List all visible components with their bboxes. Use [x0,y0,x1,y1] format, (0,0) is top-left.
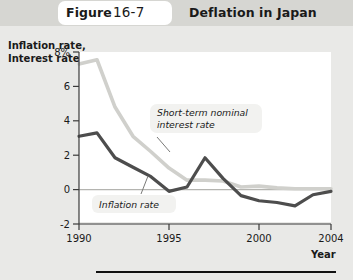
bottom-rule [96,271,336,273]
svg-text:6: 6 [64,81,70,92]
svg-text:4: 4 [64,115,70,126]
interest-annotation-line2: interest rate [157,119,215,130]
inflation-annotation-label: Inflation rate [99,199,159,210]
svg-text:1995: 1995 [156,233,181,244]
svg-text:2004: 2004 [318,233,343,244]
svg-text:8%: 8% [54,47,70,58]
x-axis-ticks: 1990199520002004 [66,224,343,244]
svg-text:-2: -2 [60,219,70,230]
y-axis-ticks: -202468% [54,47,79,230]
svg-text:2000: 2000 [246,233,271,244]
chart-plot-area: -202468% 1990199520002004 Short-term nom… [0,0,353,280]
interest-annotation-line1: Short-term nominal [157,107,248,118]
figure-panel: Figure 16-7 Deflation in Japan Inflation… [0,0,353,280]
svg-text:0: 0 [64,184,70,195]
svg-text:2: 2 [64,150,70,161]
line-chart-svg: -202468% 1990199520002004 Short-term nom… [0,0,353,280]
svg-text:1990: 1990 [66,233,91,244]
